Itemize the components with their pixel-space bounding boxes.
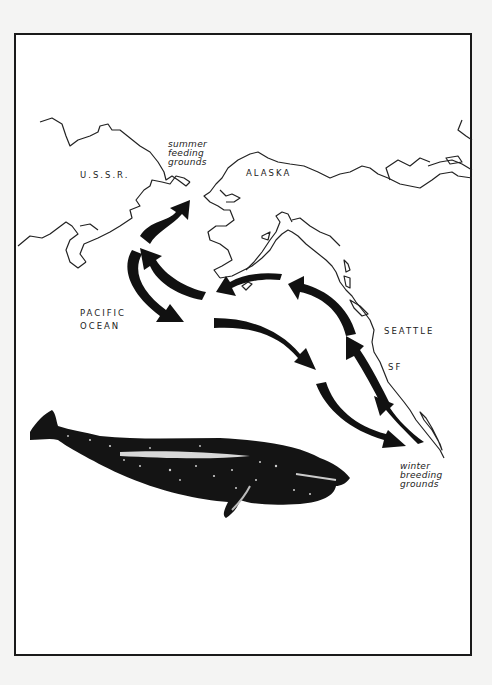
coastline	[18, 118, 472, 458]
label-ussr: U.S.S.R.	[80, 170, 129, 180]
label-sf: SF	[388, 362, 402, 372]
gray-whale-illustration	[30, 410, 350, 518]
label-alaska: ALASKA	[246, 168, 291, 178]
migration-arrows	[127, 200, 424, 448]
migration-map	[0, 0, 492, 685]
label-pacific-ocean-line2: OCEAN	[80, 321, 120, 331]
annotation-winter-breeding-grounds: winter breeding grounds	[400, 462, 443, 489]
annotation-summer-feeding-grounds: summer feeding grounds	[168, 140, 207, 167]
label-seattle: SEATTLE	[384, 326, 434, 336]
label-pacific-ocean-line1: PACIFIC	[80, 308, 126, 318]
